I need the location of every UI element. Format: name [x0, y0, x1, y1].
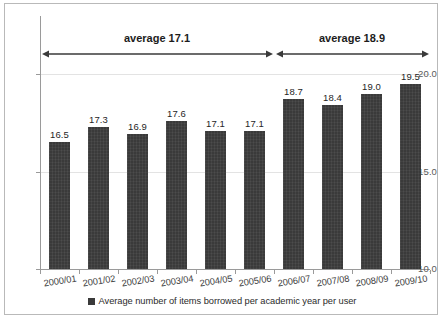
x-tick-label: 2001/02	[77, 273, 120, 289]
bar	[49, 142, 70, 269]
gridline-20.0	[41, 74, 430, 75]
x-tick-label: 2004/05	[194, 273, 237, 289]
x-tick-mark	[118, 270, 119, 274]
chart-frame: 10.015.020.0 16.517.316.917.617.117.118.…	[4, 3, 438, 315]
x-tick-label: 2005/06	[233, 273, 276, 289]
bar	[361, 94, 382, 270]
x-tick-mark	[430, 270, 431, 274]
chart-legend: Average number of items borrowed per aca…	[5, 296, 439, 306]
bar	[322, 105, 343, 269]
x-tick-mark	[79, 270, 80, 274]
x-tick-mark	[235, 270, 236, 274]
legend-swatch-icon	[88, 298, 95, 305]
bar-value-label: 18.7	[278, 86, 310, 97]
x-tick-label: 2000/01	[38, 273, 81, 289]
bar-value-label: 16.5	[44, 129, 76, 140]
bar	[166, 121, 187, 269]
x-tick-mark	[196, 270, 197, 274]
bar-value-label: 19.0	[356, 81, 388, 92]
x-tick-mark	[274, 270, 275, 274]
bar	[244, 131, 265, 269]
x-tick-mark	[352, 270, 353, 274]
bar-value-label: 17.3	[83, 114, 115, 125]
bar-value-label: 17.1	[239, 118, 271, 129]
x-tick-label: 2007/08	[311, 273, 354, 289]
bar-value-label: 17.6	[161, 108, 193, 119]
bar	[127, 134, 148, 269]
bar-value-label: 16.9	[122, 121, 154, 132]
x-tick-label: 2006/07	[272, 273, 315, 289]
bar-value-label: 19.5	[395, 71, 427, 82]
bar	[283, 99, 304, 269]
annotation-label: average 17.1	[42, 32, 273, 44]
annotation-arrow-icon	[42, 48, 273, 60]
annotation-arrow-icon	[276, 48, 429, 60]
x-tick-label: 2009/10	[389, 273, 432, 289]
x-tick-mark	[40, 270, 41, 274]
chart-container: 10.015.020.0 16.517.316.917.617.117.118.…	[0, 0, 443, 321]
bar-value-label: 17.1	[200, 118, 232, 129]
x-tick-label: 2008/09	[350, 273, 393, 289]
x-tick-label: 2002/03	[116, 273, 159, 289]
x-tick-mark	[313, 270, 314, 274]
bar	[205, 131, 226, 269]
x-tick-label: 2003/04	[155, 273, 198, 289]
bar	[400, 84, 421, 269]
x-tick-mark	[157, 270, 158, 274]
y-tick-mark	[36, 172, 40, 173]
x-tick-mark	[391, 270, 392, 274]
bar	[88, 127, 109, 269]
annotation-label: average 18.9	[276, 32, 429, 44]
legend-label: Average number of items borrowed per aca…	[99, 296, 357, 306]
bar-value-label: 18.4	[317, 92, 349, 103]
y-tick-mark	[36, 74, 40, 75]
